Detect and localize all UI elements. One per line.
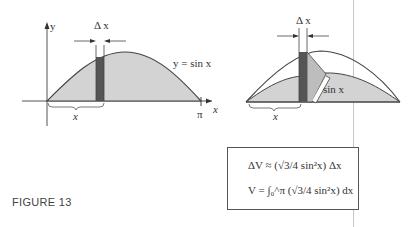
x-axis-label: x [213, 103, 218, 115]
formula-volume: V = ∫₀^π (√3/4 sin²x) dx [248, 184, 353, 196]
figure-caption: FIGURE 13 [12, 196, 72, 208]
delta-x-label: Δ x [94, 19, 109, 31]
y-axis-label: y [50, 20, 56, 32]
brace-x-label: x [73, 110, 78, 122]
curve-label: y = sin x [173, 57, 211, 69]
formula-delta-v: ΔV ≈ (√3/4 sin²x) Δx [248, 159, 341, 171]
delta-x-label-right: Δ x [296, 14, 311, 26]
formula-box: ΔV ≈ (√3/4 sin²x) Δx V = ∫₀^π (√3/4 sin²… [227, 147, 359, 210]
left-diagram [22, 22, 212, 126]
pi-label: π [197, 108, 203, 120]
right-diagram [246, 28, 400, 111]
brace-x-label-right: x [273, 110, 278, 122]
sin-x-side-label: sin x [323, 83, 344, 95]
